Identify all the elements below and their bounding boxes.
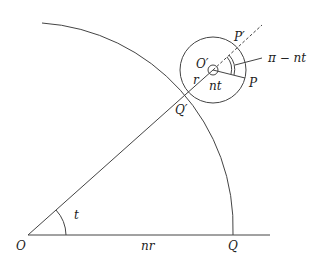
label-nr: nr	[141, 239, 156, 253]
label-pi-minus-nt: π − nt	[267, 51, 306, 65]
angle-t-arc	[56, 210, 66, 235]
pi-nt-leader	[235, 58, 262, 65]
label-O: O	[16, 239, 26, 253]
label-t: t	[74, 208, 79, 222]
label-Qprime: Q′	[175, 103, 188, 117]
label-Oprime: O′	[196, 57, 209, 71]
label-P: P	[248, 76, 258, 90]
geometry-diagram: O Q nr t Q′ r O′ nt P P′ π − nt	[0, 0, 322, 270]
label-nt: nt	[209, 79, 222, 93]
label-Q: Q	[228, 239, 238, 253]
label-r: r	[193, 73, 200, 87]
label-Pprime: P′	[233, 30, 245, 44]
large-arc	[42, 23, 233, 235]
angle-pi-nt-arc1	[227, 57, 232, 74]
